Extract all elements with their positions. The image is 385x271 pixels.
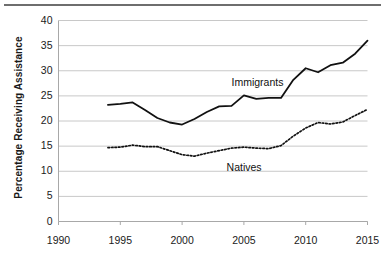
- series-label-natives: Natives: [227, 161, 262, 173]
- series-label-immigrants: Immigrants: [232, 76, 284, 88]
- gridlines: [59, 21, 368, 222]
- chart-figure: Percentage Receiving Assistance 05101520…: [0, 0, 385, 271]
- series-line-natives: [108, 109, 368, 156]
- data-series-group: [108, 41, 368, 157]
- plot-area: [0, 0, 385, 271]
